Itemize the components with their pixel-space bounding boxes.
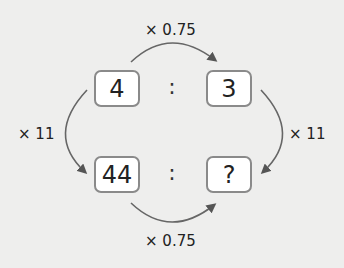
top-left-value-box: 4 bbox=[94, 70, 140, 107]
top-arrow-icon bbox=[131, 43, 215, 62]
bottom-multiplier-label: × 0.75 bbox=[145, 232, 196, 250]
top-right-value-box: 3 bbox=[206, 70, 252, 107]
bottom-arrow-icon bbox=[131, 203, 214, 222]
bottom-left-value: 44 bbox=[102, 161, 133, 189]
top-left-value: 4 bbox=[109, 75, 124, 103]
right-multiplier-label: × 11 bbox=[289, 125, 325, 143]
bottom-left-value-box: 44 bbox=[94, 156, 140, 193]
left-arrow-icon bbox=[65, 90, 87, 172]
bottom-right-unknown-box: ? bbox=[206, 156, 252, 193]
right-arrow-icon bbox=[261, 90, 283, 172]
left-multiplier-label: × 11 bbox=[18, 125, 54, 143]
bottom-ratio-colon: : bbox=[166, 160, 178, 185]
top-ratio-colon: : bbox=[166, 74, 178, 99]
ratio-diagram: 4 : 3 44 : ? × 0.75 × 0.75 × 11 × 11 bbox=[0, 0, 344, 268]
top-multiplier-label: × 0.75 bbox=[145, 21, 196, 39]
top-right-value: 3 bbox=[221, 75, 236, 103]
bottom-right-unknown: ? bbox=[223, 161, 236, 189]
